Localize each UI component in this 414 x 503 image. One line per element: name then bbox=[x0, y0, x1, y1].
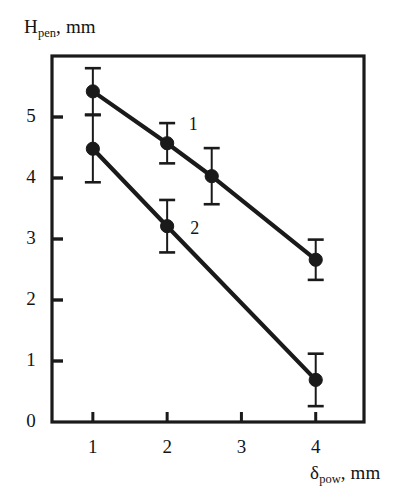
y-tick-label: 0 bbox=[20, 410, 42, 432]
data-point-marker bbox=[205, 170, 218, 183]
x-axis-title-subscript: pow bbox=[319, 472, 341, 486]
y-axis-title-units: , mm bbox=[56, 16, 96, 37]
x-tick-label: 3 bbox=[230, 436, 252, 458]
data-series-group bbox=[85, 68, 324, 406]
x-axis-title-main: δ bbox=[310, 462, 319, 483]
x-axis-title-units: , mm bbox=[341, 462, 381, 483]
axis-ticks bbox=[52, 117, 316, 422]
data-point-marker bbox=[86, 85, 99, 98]
y-tick-label: 1 bbox=[20, 349, 42, 371]
chart-figure: Hpen, mm δpow, mm 0123451234 12 bbox=[0, 0, 414, 503]
x-tick-label: 1 bbox=[82, 436, 104, 458]
data-point-marker bbox=[161, 137, 174, 150]
y-axis-title-subscript: pen bbox=[38, 26, 56, 40]
x-axis-title: δpow, mm bbox=[310, 462, 381, 484]
y-tick-label: 5 bbox=[20, 105, 42, 127]
y-axis-title-main: H bbox=[24, 16, 38, 37]
y-tick-label: 3 bbox=[20, 227, 42, 249]
plot-canvas bbox=[0, 0, 414, 503]
y-axis-title: Hpen, mm bbox=[24, 16, 96, 38]
y-tick-label: 2 bbox=[20, 288, 42, 310]
x-tick-label: 4 bbox=[305, 436, 327, 458]
series-annotation-2: 2 bbox=[187, 218, 203, 239]
series-annotation-1: 1 bbox=[185, 114, 201, 135]
series-line-1 bbox=[93, 91, 316, 259]
data-point-marker bbox=[161, 220, 174, 233]
series-line-2 bbox=[93, 149, 316, 380]
x-tick-label: 2 bbox=[156, 436, 178, 458]
y-tick-label: 4 bbox=[20, 166, 42, 188]
data-point-marker bbox=[309, 253, 322, 266]
data-point-marker bbox=[86, 142, 99, 155]
data-point-marker bbox=[309, 373, 322, 386]
